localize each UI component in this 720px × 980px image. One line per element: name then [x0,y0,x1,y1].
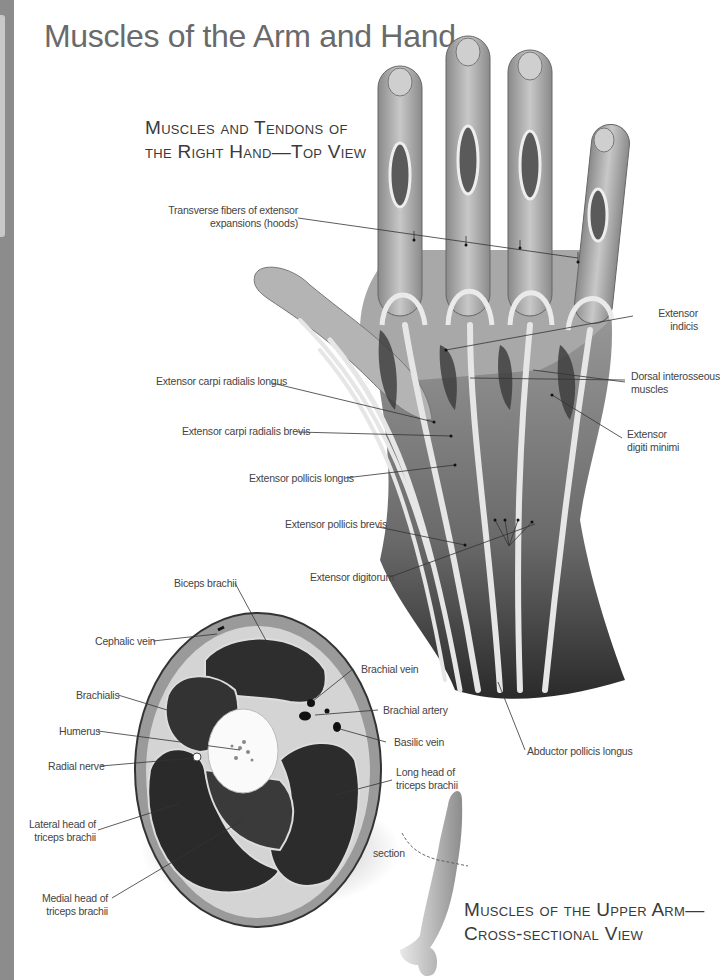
label-extensor-digiti-minimi: Extensor digiti minimi [627,428,679,454]
cross-section-heading-line2: Cross-sectional View [464,922,704,946]
label-line: triceps brachii [30,905,108,918]
label-extensor-indicis: Extensor indicis [636,307,698,333]
label-apl: Abductor pollicis longus [527,745,633,758]
label-brachial-artery: Brachial artery [383,704,448,717]
cross-section-heading-line1: Muscles of the Upper Arm— [464,898,704,922]
label-biceps: Biceps brachii [174,577,237,590]
label-line: triceps brachii [396,779,458,792]
label-line: triceps brachii [20,831,96,844]
label-cephalic-vein: Cephalic vein [95,635,155,648]
label-brachialis: Brachialis [76,689,120,702]
label-long-head-triceps: Long head of triceps brachii [396,766,458,792]
label-line: Transverse fibers of extensor [160,204,298,217]
label-ecrl: Extensor carpi radialis longus [156,375,287,388]
label-epl: Extensor pollicis longus [249,472,354,485]
label-ecrb: Extensor carpi radialis brevis [182,425,310,438]
small-arm-illustration [400,791,468,976]
cross-section-heading: Muscles of the Upper Arm— Cross-sectiona… [464,898,704,946]
label-basilic-vein: Basilic vein [394,736,444,749]
label-line: Lateral head of [20,818,96,831]
label-line: Extensor [627,428,679,441]
label-transverse-fibers: Transverse fibers of extensor expansions… [160,204,298,230]
label-line: Medial head of [30,892,108,905]
label-line: digiti minimi [627,441,679,454]
label-line: Long head of [396,766,458,779]
label-brachial-vein: Brachial vein [361,663,419,676]
label-epb: Extensor pollicis brevis [285,518,387,531]
label-medial-head-triceps: Medial head of triceps brachii [30,892,108,918]
label-lateral-head-triceps: Lateral head of triceps brachii [20,818,96,844]
label-line: Dorsal interosseous [631,370,720,383]
label-line: indicis [636,320,698,333]
label-section: section [373,847,405,860]
label-dorsal-interosseous: Dorsal interosseous muscles [631,370,720,396]
label-line: Extensor [636,307,698,320]
label-ed: Extensor digitorum [310,571,394,584]
label-humerus: Humerus [59,725,100,738]
label-line: expansions (hoods) [160,217,298,230]
cross-section-illustration [135,613,400,927]
label-line: muscles [631,383,720,396]
hand-illustration [254,36,631,699]
label-radial-nerve: Radial nerve [48,760,105,773]
